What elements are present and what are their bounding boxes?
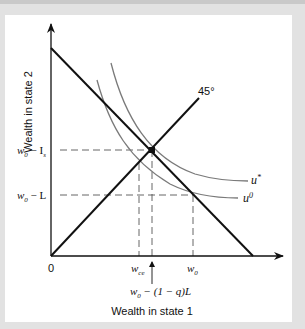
line-45-label: 45° xyxy=(198,85,215,97)
optimum-point xyxy=(149,147,155,153)
x-axis-label: Wealth in state 1 xyxy=(111,305,193,317)
indifference-curve-u0 xyxy=(97,80,238,198)
y-label-w0-minus-Is: w0 − Is xyxy=(17,144,46,159)
dashed-guides xyxy=(60,150,193,256)
curve-label-u-star: u* xyxy=(251,173,261,187)
indifference-curve-u-star xyxy=(111,63,248,181)
y-label-w0-minus-L: w0 − L xyxy=(17,189,47,204)
origin-label: 0 xyxy=(48,262,54,274)
x-label-wce: wce xyxy=(131,262,145,277)
y-axis-label: Wealth in state 2 xyxy=(22,71,34,153)
annotation-w0-minus-1-q-L: w0 − (1 − q)L xyxy=(130,285,191,300)
curve-label-u0: u0 xyxy=(243,191,253,205)
insurance-diagram: Wealth in state 2 45° u* u0 w0 − Is w0 −… xyxy=(0,0,305,329)
x-label-w0: w0 xyxy=(187,262,198,277)
